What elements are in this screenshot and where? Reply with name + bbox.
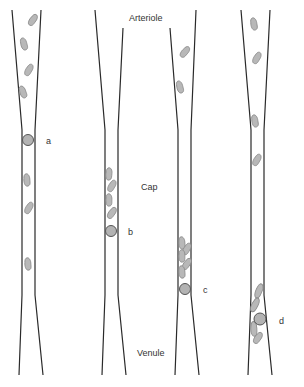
label-a: a — [46, 136, 51, 146]
arteriole-label: Arteriole — [129, 13, 163, 23]
red-cell — [254, 283, 263, 299]
red-cell — [252, 153, 262, 167]
label-d: d — [279, 316, 284, 326]
venule-label: Venule — [137, 348, 165, 358]
white-cell-b — [106, 226, 117, 237]
red-cell — [24, 63, 34, 77]
label-c: c — [203, 285, 208, 295]
vessel-c-right-wall — [191, 10, 199, 375]
red-cell — [28, 13, 39, 27]
white-cell-a — [23, 135, 34, 146]
red-cell — [107, 179, 117, 193]
red-cell — [104, 167, 113, 180]
vessel-b-right-wall — [118, 28, 126, 375]
red-cell — [22, 173, 33, 187]
red-cell — [248, 17, 259, 31]
vessel-a — [12, 10, 43, 375]
red-cell — [23, 257, 34, 271]
vessel-b-left-wall — [95, 10, 105, 375]
white-cell-c — [180, 284, 191, 295]
vessel-a-left-wall — [12, 10, 22, 375]
red-cell — [252, 51, 262, 65]
capillary-label: Cap — [141, 182, 158, 192]
vessel-b — [95, 10, 126, 375]
label-b: b — [128, 227, 133, 237]
vessel-d — [241, 10, 272, 375]
red-cell — [18, 37, 30, 51]
vessel-c-left-wall — [170, 28, 178, 375]
red-cell — [107, 206, 118, 220]
white-cell-d — [254, 313, 266, 325]
red-cell — [179, 45, 190, 59]
red-cell — [24, 201, 34, 215]
vessel-d-left-wall — [241, 10, 251, 375]
microcirculation-diagram: a b c d Arteriole — [0, 0, 304, 387]
red-cell — [174, 80, 186, 94]
vessel-a-right-wall — [35, 10, 43, 375]
vessel-c — [170, 10, 199, 375]
